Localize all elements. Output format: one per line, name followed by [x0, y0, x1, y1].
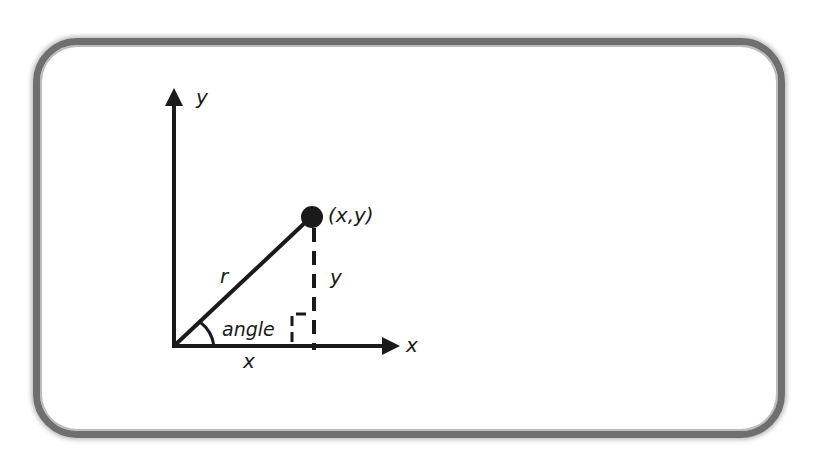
angle-arc: [200, 322, 214, 346]
point-marker: [301, 206, 323, 228]
x-axis-arrowhead-icon: [382, 337, 400, 355]
angle-label: angle: [222, 318, 275, 340]
y-axis-arrowhead-icon: [165, 88, 183, 106]
x-component-label: x: [242, 349, 255, 373]
radius-label: r: [220, 264, 230, 288]
right-angle-marker: [292, 314, 306, 342]
polar-coordinate-diagram: y x (x,y) r y x angle: [0, 0, 820, 466]
y-component-label: y: [329, 265, 343, 289]
y-axis-label: y: [195, 85, 209, 109]
point-label: (x,y): [328, 203, 374, 227]
x-axis-label: x: [405, 333, 418, 357]
